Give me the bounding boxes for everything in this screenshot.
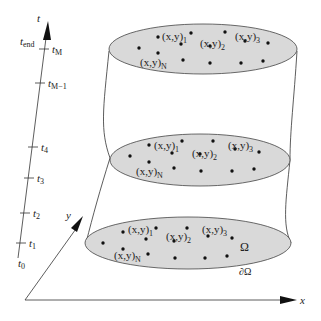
time-tick-label: tM−1 [48,77,67,91]
y-axis-line [25,226,78,300]
collocation-point [147,143,150,146]
time-tick-label: t4 [41,141,48,155]
collocation-point [146,252,149,255]
collocation-point [180,139,183,142]
domain-ellipse-top [109,24,297,74]
omega-label: Ω [240,240,249,254]
collocation-point [261,59,264,62]
collocation-point [225,254,228,257]
collocation-point [223,30,226,33]
collocation-point [137,46,140,49]
collocation-point [128,154,131,157]
cylinder-right-wall [286,51,297,243]
domain-ellipse-middle [110,134,290,186]
collocation-point [203,256,206,259]
collocation-point [156,35,159,38]
y-axis-arrowhead [71,216,83,232]
x-axis-label: x [299,294,305,306]
collocation-point [230,236,233,239]
collocation-point [144,237,147,240]
y-axis-label: y [65,209,71,221]
x-axis-arrowhead [280,296,297,304]
collocation-point [199,169,202,172]
collocation-point [230,169,233,172]
collocation-point [181,58,184,61]
collocation-point [252,167,255,170]
collocation-point [156,51,159,54]
collocation-point [211,139,214,142]
boundary-omega-label: ∂Ω [239,266,251,277]
collocation-point [121,230,124,233]
collocation-point [101,241,104,244]
time-axis-label: t [37,12,41,24]
t-end-label: tend [20,35,35,49]
space-time-diagram: (x,y)1 (x,y)2 (x,y)3 (x,y)N (x,y)1 (x,y)… [0,0,321,321]
cylinder-left-wall [86,51,110,243]
collocation-point [147,160,150,163]
collocation-point [189,31,192,34]
collocation-point [173,256,176,259]
time-tick-label: tM [52,43,62,57]
time-axis-arrowhead [43,21,51,40]
t0-label: t0 [18,257,25,271]
time-tick-label: t1 [29,237,36,251]
time-tick-label: t2 [33,207,40,221]
collocation-point [172,166,175,169]
collocation-point [154,226,157,229]
collocation-point [170,151,173,154]
collocation-point [239,61,242,64]
collocation-point [266,41,269,44]
time-tick-label: t3 [37,172,44,186]
collocation-point [257,150,260,153]
collocation-point [208,61,211,64]
